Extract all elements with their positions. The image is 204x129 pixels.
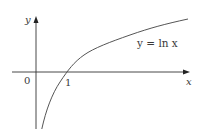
x-axis-arrow-icon	[183, 70, 190, 75]
curve-label: y = ln x	[136, 37, 178, 49]
x-axis-label: x	[186, 76, 192, 87]
origin-label: 0	[24, 75, 30, 86]
ln-graph: y x 0 1 y = ln x	[0, 0, 204, 129]
ln-curve	[42, 19, 188, 129]
tick-label-1: 1	[65, 77, 71, 88]
y-axis-arrow-icon	[34, 16, 39, 23]
y-axis-label: y	[24, 14, 31, 25]
